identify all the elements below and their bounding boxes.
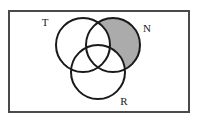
shaded-region-n-only: [0, 0, 197, 122]
set-label-t: T: [42, 16, 49, 28]
set-label-n: N: [143, 22, 151, 34]
set-label-r: R: [120, 95, 128, 107]
venn-diagram-canvas: T N R: [0, 0, 197, 122]
venn-diagram-figure: T N R: [0, 0, 197, 122]
